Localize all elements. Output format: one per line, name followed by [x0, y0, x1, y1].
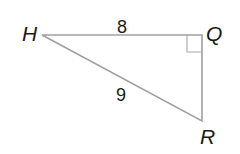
right-angle-marker — [187, 35, 202, 52]
vertex-label-q: Q — [206, 22, 222, 45]
vertex-label-h: H — [22, 22, 38, 45]
triangle-diagram: H Q R 8 9 — [0, 0, 240, 154]
vertex-label-r: R — [200, 125, 215, 148]
side-label-hq: 8 — [117, 17, 127, 37]
triangle-hqr — [42, 35, 202, 121]
side-label-hr: 9 — [116, 85, 126, 105]
